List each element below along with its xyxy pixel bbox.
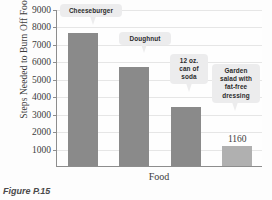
callout-tail	[232, 102, 238, 111]
y-axis-tick-mark	[53, 97, 57, 98]
bar-2[interactable]	[119, 67, 149, 166]
callout-line: can of	[174, 65, 204, 73]
y-axis-tick-label: 3000	[32, 110, 51, 120]
plot-area: 100020003000400050006000700080009000 116…	[56, 10, 262, 167]
bar-1[interactable]	[68, 33, 98, 166]
callout-tail	[186, 83, 192, 92]
figure-caption: Figure P.15	[3, 186, 50, 196]
bar-4[interactable]	[222, 146, 252, 166]
y-axis-tick-mark	[53, 150, 57, 151]
y-axis-tick-label: 9000	[32, 5, 51, 15]
y-axis-tick-mark	[53, 45, 57, 46]
callout-tail	[90, 16, 96, 25]
callout-line: dressing	[216, 92, 256, 100]
x-axis-title: Food	[56, 171, 262, 182]
y-axis-tick-mark	[53, 115, 57, 116]
callout-line: Cheeseburger	[64, 7, 118, 15]
callout-line: fat-free	[216, 83, 256, 91]
gridline	[57, 27, 262, 28]
callout-line: soda	[174, 73, 204, 81]
bar-value-label: 1160	[228, 134, 247, 144]
bar-3[interactable]	[171, 107, 201, 166]
callout-line: salad with	[216, 75, 256, 83]
y-axis-tick-mark	[53, 62, 57, 63]
y-axis-tick-label: 7000	[32, 40, 51, 50]
figure-container: Steps Needed to Burn Off Food 1000200030…	[0, 0, 272, 200]
y-axis-tick-mark	[53, 27, 57, 28]
y-axis-tick-label: 2000	[32, 127, 51, 137]
y-axis-tick-mark	[53, 132, 57, 133]
y-axis-tick-label: 1000	[32, 145, 51, 155]
y-axis-tick-label: 5000	[32, 75, 51, 85]
callout-line: 12 oz.	[174, 57, 204, 65]
callout-4: Gardensalad withfat-freedressing	[212, 64, 260, 103]
y-axis-title: Steps Needed to Burn Off Food	[19, 0, 29, 137]
callout-line: Garden	[216, 67, 256, 75]
callout-3: 12 oz.can ofsoda	[170, 54, 208, 84]
callout-tail	[141, 44, 147, 53]
y-axis-tick-label: 6000	[32, 57, 51, 67]
y-axis-tick-label: 4000	[32, 92, 51, 102]
y-axis-tick-mark	[53, 10, 57, 11]
y-axis-tick-mark	[53, 80, 57, 81]
y-axis-tick-label: 8000	[32, 22, 51, 32]
callout-line: Doughnut	[123, 35, 167, 43]
